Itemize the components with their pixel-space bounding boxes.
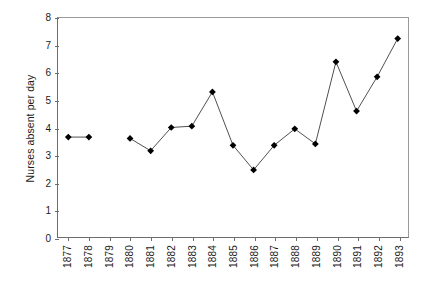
y-axis-tick-label: 3	[25, 150, 58, 162]
data-point-marker	[394, 35, 401, 42]
x-axis-tick	[317, 237, 318, 241]
x-axis-tick	[358, 237, 359, 241]
x-axis-tick	[379, 237, 380, 241]
y-axis-tick-label: 7	[25, 40, 58, 52]
x-axis-tick	[130, 237, 131, 241]
data-point-marker	[333, 58, 340, 65]
x-axis-tick-label: 1880	[124, 245, 136, 279]
x-axis-tick-label: 1890	[332, 245, 344, 279]
data-point-marker	[65, 134, 72, 141]
x-axis-tick-label: 1887	[269, 245, 281, 279]
x-axis-tick-label: 1881	[145, 245, 157, 279]
data-point-marker	[188, 123, 195, 130]
x-axis-tick-label: 1892	[373, 245, 385, 279]
x-axis-tick-label: 1888	[290, 245, 302, 279]
x-axis-tick	[151, 237, 152, 241]
x-axis-tick-label: 1891	[352, 245, 364, 279]
x-axis-tick-label: 1886	[249, 245, 261, 279]
x-axis-tick-label: 1883	[187, 245, 199, 279]
x-axis-tick	[193, 237, 194, 241]
y-axis-tick-label: 5	[25, 95, 58, 107]
data-series	[58, 18, 408, 237]
y-axis-tick-label: 2	[25, 178, 58, 190]
data-point-marker	[127, 135, 134, 142]
data-point-marker	[353, 108, 360, 115]
x-axis-tick-label: 1877	[62, 245, 74, 279]
y-axis-tick-label: 4	[25, 123, 58, 135]
x-axis-tick	[110, 237, 111, 241]
data-point-marker	[86, 134, 93, 141]
data-point-marker	[312, 141, 319, 148]
x-axis-tick-label: 1889	[311, 245, 323, 279]
plot-area: Nurses absent per day 876543210 18771878…	[57, 17, 409, 238]
data-point-marker	[209, 89, 216, 96]
line-segment	[130, 39, 398, 170]
x-axis-tick	[255, 237, 256, 241]
x-axis-tick-label: 1882	[166, 245, 178, 279]
x-axis-tick	[296, 237, 297, 241]
x-axis-tick	[172, 237, 173, 241]
x-axis-tick	[338, 237, 339, 241]
y-axis-tick-label: 0	[25, 233, 58, 245]
x-axis-tick-label: 1878	[83, 245, 95, 279]
y-axis-tick-label: 6	[25, 67, 58, 79]
x-axis-tick	[234, 237, 235, 241]
nurses-absent-line-chart: Nurses absent per day 876543210 18771878…	[0, 0, 434, 284]
y-axis-tick-label: 8	[25, 12, 58, 24]
x-axis-tick	[213, 237, 214, 241]
data-point-marker	[374, 73, 381, 80]
x-axis-tick-label: 1885	[228, 245, 240, 279]
x-axis-tick	[89, 237, 90, 241]
y-axis-tick-label: 1	[25, 205, 58, 217]
x-axis-tick-label: 1879	[104, 245, 116, 279]
x-axis-tick	[68, 237, 69, 241]
x-axis-tick-label: 1884	[207, 245, 219, 279]
x-axis-tick-label: 1893	[394, 245, 406, 279]
x-axis-tick	[400, 237, 401, 241]
x-axis-tick	[275, 237, 276, 241]
